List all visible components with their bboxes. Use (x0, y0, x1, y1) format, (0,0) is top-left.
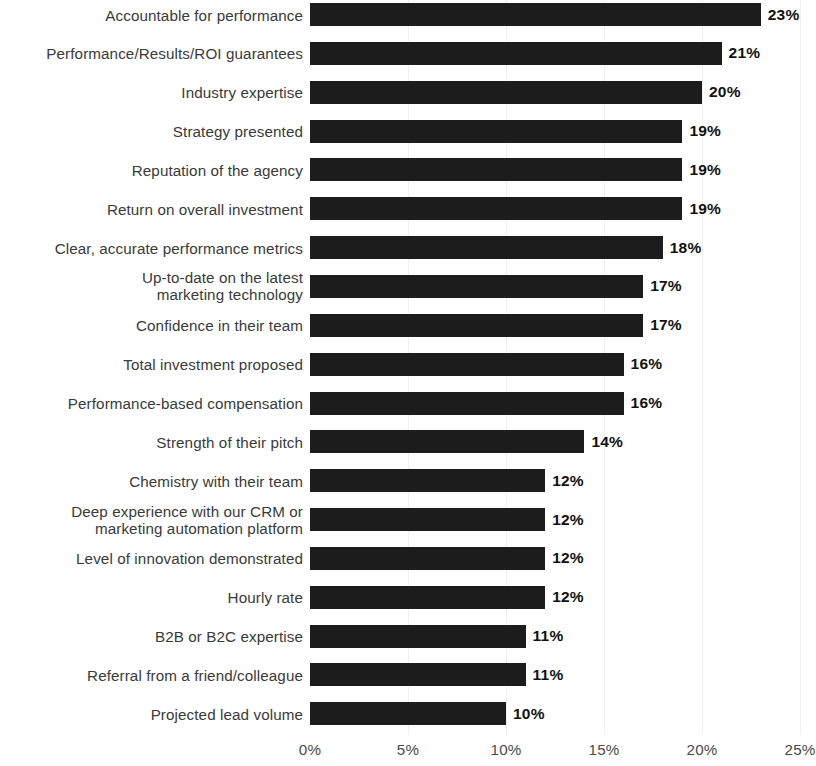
bar (310, 81, 702, 104)
bar (310, 3, 761, 26)
category-label: Deep experience with our CRM or marketin… (0, 503, 303, 537)
bar-value-label: 16% (631, 394, 663, 412)
category-label: B2B or B2C expertise (0, 628, 303, 645)
bar-value-label: 16% (631, 355, 663, 373)
bar (310, 625, 526, 648)
x-axis-tick-label: 10% (491, 741, 522, 758)
x-axis-tick-label: 15% (589, 741, 620, 758)
bar-row: Performance/Results/ROI guarantees21% (0, 42, 815, 65)
bar-row: Deep experience with our CRM or marketin… (0, 508, 815, 531)
bar (310, 275, 643, 298)
bar (310, 430, 584, 453)
bar-value-label: 12% (552, 588, 584, 606)
category-label: Clear, accurate performance metrics (0, 239, 303, 256)
bar-row: Return on overall investment19% (0, 197, 815, 220)
bar-row: Confidence in their team17% (0, 314, 815, 337)
bar-row: B2B or B2C expertise11% (0, 625, 815, 648)
bar-row: Level of innovation demonstrated12% (0, 547, 815, 570)
bar (310, 392, 624, 415)
bar-value-label: 12% (552, 511, 584, 529)
bar-row: Referral from a friend/colleague11% (0, 663, 815, 686)
bar-row: Accountable for performance23% (0, 3, 815, 26)
bar-value-label: 19% (689, 122, 721, 140)
bar-row: Strategy presented19% (0, 120, 815, 143)
bar-value-label: 10% (513, 705, 545, 723)
x-axis-tick-label: 20% (687, 741, 718, 758)
bar-row: Performance-based compensation16% (0, 392, 815, 415)
x-axis-tick-label: 5% (397, 741, 419, 758)
category-label: Up-to-date on the latest marketing techn… (0, 269, 303, 303)
bar (310, 353, 624, 376)
category-label: Referral from a friend/colleague (0, 666, 303, 683)
bar-value-label: 23% (768, 6, 800, 24)
bar (310, 547, 545, 570)
category-label: Accountable for performance (0, 6, 303, 23)
category-label: Level of innovation demonstrated (0, 550, 303, 567)
bar (310, 236, 663, 259)
bar-value-label: 12% (552, 549, 584, 567)
bar-value-label: 19% (689, 200, 721, 218)
bar-value-label: 21% (729, 44, 761, 62)
bar-row: Chemistry with their team12% (0, 469, 815, 492)
category-label: Total investment proposed (0, 356, 303, 373)
plot-area: Accountable for performance23%Performanc… (0, 0, 815, 735)
bar (310, 197, 682, 220)
category-label: Strategy presented (0, 123, 303, 140)
bar (310, 663, 526, 686)
bar (310, 508, 545, 531)
bar (310, 314, 643, 337)
bar (310, 702, 506, 725)
bar-value-label: 12% (552, 472, 584, 490)
bar-row: Industry expertise20% (0, 81, 815, 104)
category-label: Reputation of the agency (0, 161, 303, 178)
bar-value-label: 17% (650, 277, 682, 295)
bar-value-label: 18% (670, 239, 702, 257)
bar (310, 586, 545, 609)
category-label: Performance-based compensation (0, 395, 303, 412)
bar-value-label: 17% (650, 316, 682, 334)
x-axis-tick-label: 25% (785, 741, 816, 758)
category-label: Strength of their pitch (0, 433, 303, 450)
bar-value-label: 11% (533, 666, 564, 684)
bar-value-label: 14% (591, 433, 623, 451)
bar-row: Up-to-date on the latest marketing techn… (0, 275, 815, 298)
x-axis-tick-label: 0% (299, 741, 321, 758)
bar (310, 42, 722, 65)
bar-row: Strength of their pitch14% (0, 430, 815, 453)
category-label: Chemistry with their team (0, 472, 303, 489)
bar-value-label: 20% (709, 83, 741, 101)
bar-value-label: 19% (689, 161, 721, 179)
bar-row: Clear, accurate performance metrics18% (0, 236, 815, 259)
category-label: Return on overall investment (0, 200, 303, 217)
bar (310, 158, 682, 181)
bar (310, 120, 682, 143)
category-label: Projected lead volume (0, 705, 303, 722)
category-label: Industry expertise (0, 84, 303, 101)
bar-value-label: 11% (533, 627, 564, 645)
bar-row: Projected lead volume10% (0, 702, 815, 725)
category-label: Performance/Results/ROI guarantees (0, 45, 303, 62)
bar-row: Total investment proposed16% (0, 353, 815, 376)
bar (310, 469, 545, 492)
category-label: Hourly rate (0, 589, 303, 606)
category-label: Confidence in their team (0, 317, 303, 334)
x-axis: 0%5%10%15%20%25% (0, 735, 815, 766)
bar-row: Reputation of the agency19% (0, 158, 815, 181)
bar-row: Hourly rate12% (0, 586, 815, 609)
